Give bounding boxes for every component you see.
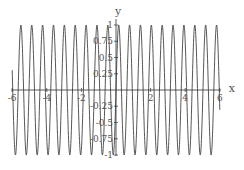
y-tick-label: 0.5 — [99, 53, 114, 63]
x-tick-label: -4 — [42, 93, 51, 103]
x-tick-label: 6 — [217, 93, 223, 103]
x-tick-label: -2 — [77, 93, 86, 103]
x-tick-label: -6 — [8, 93, 17, 103]
y-tick-label: 0.25 — [93, 69, 113, 79]
y-tick-label: -0.75 — [90, 134, 113, 144]
y-tick-label: -0.25 — [90, 101, 113, 111]
x-tick-label: 4 — [182, 93, 188, 103]
y-tick-label: -0.5 — [96, 118, 114, 128]
y-tick-label: 0.75 — [93, 36, 113, 46]
x-axis-label: x — [229, 82, 236, 95]
y-tick-label: 1 — [107, 20, 113, 30]
y-axis-label: y — [114, 5, 122, 18]
sine-plot: -6-4-2246 -1-0.75-0.5-0.250.250.50.751 x… — [0, 0, 244, 170]
x-tick-label: 2 — [148, 93, 154, 103]
y-tick-label: -1 — [104, 150, 113, 160]
